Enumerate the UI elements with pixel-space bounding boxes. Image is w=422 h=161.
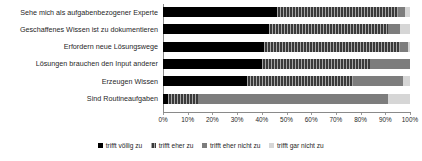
bar-segment — [277, 7, 398, 17]
bar-row — [163, 24, 410, 34]
x-tick-label: 10% — [181, 116, 194, 123]
bar-segment — [388, 24, 400, 34]
x-tick-mark — [262, 113, 263, 115]
bar-segment — [163, 24, 269, 34]
x-tick-label: 20% — [206, 116, 219, 123]
plot-area — [163, 4, 410, 108]
legend-item: trifft gar nicht zu — [269, 142, 323, 149]
category-label: Lösungen brauchen den Input anderer — [0, 59, 158, 68]
legend-item: trifft eher zu — [151, 142, 193, 149]
x-tick-mark — [188, 113, 189, 115]
x-tick-label: 30% — [231, 116, 244, 123]
x-axis-ticks: 0%10%20%30%40%50%60%70%80%90%100% — [163, 113, 411, 125]
x-tick-label: 90% — [379, 116, 392, 123]
x-tick-label: 100% — [402, 116, 418, 123]
bar-row — [163, 7, 410, 17]
bar-row — [163, 59, 410, 69]
category-label: Sind Routineaufgaben — [0, 94, 158, 103]
bar-segment — [163, 59, 262, 69]
chart-legend: trifft völlig zutrifft eher zutrifft ehe… — [0, 142, 422, 149]
bar-segment — [262, 59, 371, 69]
x-tick-mark — [311, 113, 312, 115]
x-tick-label: 70% — [329, 116, 342, 123]
x-tick-mark — [287, 113, 288, 115]
category-label: Sehe mich als aufgabenbezogener Experte — [0, 8, 158, 17]
legend-item: trifft eher nicht zu — [202, 142, 260, 149]
legend-swatch-icon — [98, 143, 103, 148]
legend-swatch-icon — [151, 143, 156, 148]
x-tick-mark — [237, 113, 238, 115]
bar-segment — [163, 7, 277, 17]
bar-segment — [398, 7, 405, 17]
x-tick-mark — [212, 113, 213, 115]
x-tick-mark — [163, 113, 164, 115]
legend-label: trifft gar nicht zu — [277, 142, 324, 149]
bar-segment — [163, 42, 264, 52]
x-tick-label: 50% — [280, 116, 293, 123]
category-label: Erzeugen Wissen — [0, 77, 158, 86]
category-label: Geschaffenes Wissen ist zu dokumentieren — [0, 25, 158, 34]
legend-item: trifft völlig zu — [98, 142, 142, 149]
bar-segment — [163, 76, 247, 86]
legend-label: trifft völlig zu — [106, 142, 143, 149]
x-tick-label: 60% — [305, 116, 318, 123]
bar-segment — [405, 7, 410, 17]
bar-segment — [168, 94, 198, 104]
legend-label: trifft eher zu — [159, 142, 194, 149]
x-tick-mark — [410, 113, 411, 115]
x-tick-label: 0% — [158, 116, 167, 123]
x-tick-mark — [336, 113, 337, 115]
bar-segment — [400, 42, 407, 52]
bar-row — [163, 76, 410, 86]
bar-segment — [353, 76, 402, 86]
x-tick-mark — [361, 113, 362, 115]
bar-segment — [400, 24, 410, 34]
bar-row — [163, 94, 410, 104]
legend-swatch-icon — [202, 143, 207, 148]
category-axis-labels: Sehe mich als aufgabenbezogener ExperteG… — [0, 4, 158, 108]
bar-row — [163, 42, 410, 52]
stacked-bar-chart: Sehe mich als aufgabenbezogener ExperteG… — [0, 0, 422, 161]
bar-segment — [247, 76, 353, 86]
category-label: Erfordern neue Lösungswege — [0, 42, 158, 51]
bar-segment — [370, 59, 410, 69]
x-tick-label: 40% — [255, 116, 268, 123]
legend-swatch-icon — [269, 143, 274, 148]
x-tick-mark — [385, 113, 386, 115]
bar-segment — [264, 42, 400, 52]
bar-segment — [403, 76, 410, 86]
legend-label: trifft eher nicht zu — [210, 142, 260, 149]
bar-segment — [408, 42, 410, 52]
x-tick-label: 80% — [354, 116, 367, 123]
bar-segment — [388, 94, 410, 104]
bar-segment — [198, 94, 388, 104]
bar-segment — [269, 24, 388, 34]
